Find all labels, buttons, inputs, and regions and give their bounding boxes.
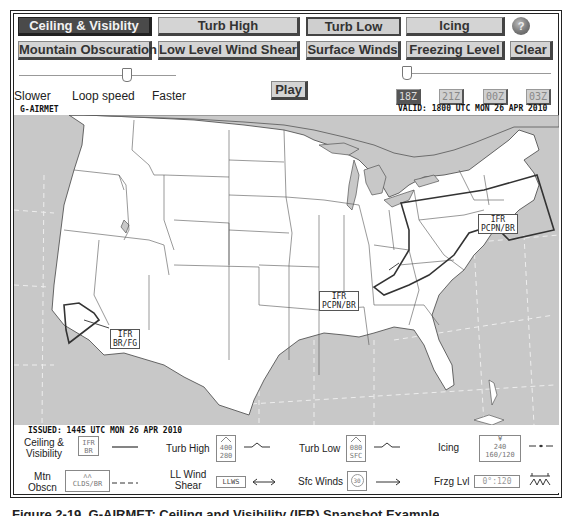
- right-arrow-icon: [376, 478, 402, 486]
- surface-winds-button[interactable]: Surface Winds: [306, 41, 401, 60]
- slower-label: Slower: [14, 89, 51, 103]
- icing-button[interactable]: Icing: [406, 17, 505, 36]
- low-level-wind-shear-button[interactable]: Low Level Wind Shear: [158, 41, 300, 60]
- label-line1: Mtn: [28, 471, 57, 482]
- legend-ceiling-visibility-label: Ceiling & Visibility: [24, 437, 64, 459]
- label-line1: IFR: [322, 292, 356, 301]
- issued-time: ISSUED: 1445 UTC MON 26 APR 2010: [28, 426, 182, 435]
- figure-caption: Figure 2-19. G-AIRMET: Ceiling and Visib…: [12, 504, 439, 516]
- icing-line-icon: [529, 443, 553, 449]
- legend-sfc-winds-box: 30: [347, 471, 367, 491]
- legend-turb-high-box: 400 280: [216, 435, 236, 462]
- freezing-level-line-icon: [529, 471, 551, 487]
- label-line2: PCPN/BR: [322, 301, 356, 310]
- loop-speed-label: Loop speed: [72, 89, 135, 103]
- box-line2: SFC: [347, 452, 365, 460]
- label-line1: LL Wind: [170, 469, 206, 480]
- loop-speed-slider-thumb[interactable]: [122, 68, 132, 82]
- legend-frzg-lvl-box: 0°:120: [474, 475, 520, 488]
- turbulence-line-icon: [244, 441, 270, 449]
- label-line1: Ceiling &: [24, 437, 64, 448]
- map-graphic: [14, 115, 559, 425]
- legend-mtn-obscn-label: Mtn Obscn: [28, 471, 57, 493]
- mountain-obscuration-button[interactable]: Mountain Obscuration: [18, 41, 152, 60]
- box-line2: 280: [217, 452, 235, 460]
- label-line2: Obscn: [28, 482, 57, 493]
- solid-line-icon: [112, 445, 138, 449]
- legend-turb-high-label: Turb High: [166, 443, 210, 454]
- time-21z-button[interactable]: 21Z: [439, 89, 464, 105]
- us-map[interactable]: IFR PCPN/BR IFR PCPN/BR IFR BR/FG: [14, 115, 559, 425]
- legend: ISSUED: 1445 UTC MON 26 APR 2010 Ceiling…: [14, 425, 559, 493]
- label-line1: IFR: [481, 215, 515, 224]
- legend-icing-label: Icing: [438, 442, 459, 453]
- box-line1: 240: [480, 443, 520, 451]
- double-arrow-icon: [251, 478, 277, 486]
- turbulence-caret-icon: [220, 436, 232, 442]
- box-line1: 080: [347, 444, 365, 452]
- help-button[interactable]: ?: [512, 17, 530, 35]
- legend-turb-low-box: 080 SFC: [346, 435, 366, 462]
- time-03z-button[interactable]: 03Z: [526, 89, 551, 105]
- time-00z-button[interactable]: 00Z: [483, 89, 508, 105]
- loop-speed-slider-track[interactable]: [19, 75, 176, 76]
- legend-ceiling-visibility-box: IFR BR: [78, 436, 99, 456]
- freezing-level-button[interactable]: Freezing Level: [406, 41, 505, 60]
- legend-sfc-winds-label: Sfc Winds: [298, 476, 343, 487]
- airmet-label-northeast[interactable]: IFR PCPN/BR: [478, 214, 518, 234]
- label-line1: IFR: [113, 330, 137, 339]
- ceiling-visibility-button[interactable]: Ceiling & Visiblity: [18, 17, 152, 36]
- play-button[interactable]: Play: [271, 81, 308, 100]
- label-line2: Visibility: [24, 448, 64, 459]
- label-line2: Shear: [170, 480, 206, 491]
- dashed-line-icon: [112, 481, 138, 485]
- label-line2: BR/FG: [113, 339, 137, 348]
- airmet-label-southern-california[interactable]: IFR BR/FG: [110, 329, 140, 349]
- time-slider-thumb[interactable]: [402, 66, 412, 80]
- legend-mtn-obscn-box: ʌʌ CLDS/BR: [65, 470, 110, 492]
- box-line1: IFR: [79, 439, 98, 447]
- box-line2: 160/120: [480, 451, 520, 459]
- icing-symbol-icon: ¥: [480, 436, 520, 443]
- turbulence-line-icon: [374, 441, 400, 449]
- mountain-icon: ʌʌ: [66, 472, 109, 480]
- faster-label: Faster: [152, 89, 186, 103]
- turb-low-button[interactable]: Turb Low: [306, 17, 401, 36]
- clear-button[interactable]: Clear: [510, 41, 553, 60]
- product-title: G-AIRMET: [20, 105, 59, 114]
- label-line2: PCPN/BR: [481, 224, 515, 233]
- time-18z-button[interactable]: 18Z: [396, 89, 421, 105]
- legend-turb-low-label: Turb Low: [299, 443, 340, 454]
- box-line1: 400: [217, 444, 235, 452]
- legend-ll-wind-shear-label: LL Wind Shear: [170, 469, 206, 491]
- legend-frzg-lvl-label: Frzg Lvl: [434, 476, 470, 487]
- box-text: CLDS/BR: [66, 480, 109, 488]
- turb-high-button[interactable]: Turb High: [158, 17, 300, 36]
- legend-llws-box: LLWS: [216, 476, 246, 488]
- valid-time: VALID: 1800 UTC MON 26 APR 2010: [398, 104, 547, 113]
- box-line2: BR: [79, 447, 98, 455]
- time-slider-track[interactable]: [405, 73, 551, 74]
- airmet-label-south-central[interactable]: IFR PCPN/BR: [319, 291, 359, 311]
- legend-icing-box: ¥ 240 160/120: [479, 435, 521, 462]
- wind-circle-icon: 30: [351, 474, 364, 487]
- us-land: [52, 115, 539, 415]
- turbulence-caret-icon: [350, 436, 362, 442]
